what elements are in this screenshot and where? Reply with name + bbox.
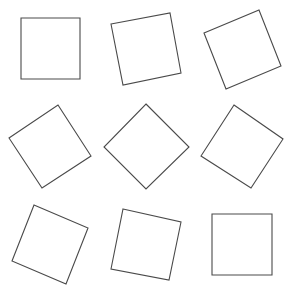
square-2 xyxy=(111,13,181,85)
square-7 xyxy=(12,205,88,284)
square-3 xyxy=(204,10,281,89)
square-1 xyxy=(21,18,80,79)
square-9 xyxy=(212,214,272,275)
square-5 xyxy=(104,104,189,189)
square-6 xyxy=(201,105,283,188)
rotated-squares-diagram xyxy=(0,0,290,291)
square-8 xyxy=(111,209,181,280)
square-4 xyxy=(9,105,91,188)
